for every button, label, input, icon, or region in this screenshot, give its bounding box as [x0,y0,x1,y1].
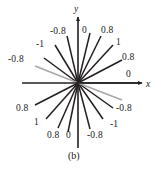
ray-value-label: 0.8 [16,104,28,114]
ray-line [46,83,78,119]
ray-value-label: 0 [126,70,131,80]
ray-value-label: 0.8 [122,53,134,63]
ray-value-label: -0.8 [50,27,66,37]
ray-line [68,83,78,132]
ray-line [78,36,101,83]
ray-value-label: 0.8 [101,26,113,36]
ray-value-label: 0.8 [47,131,59,141]
figure-caption: (b) [68,151,80,161]
ray-value-label: -1 [36,40,44,50]
ray-value-label: 1 [116,38,121,48]
ray-value-label: 0 [66,131,71,141]
ray-value-label: 1 [34,118,39,128]
ray-line [55,45,78,83]
radial-star-plot [0,0,157,169]
ray-line [58,83,78,128]
figure-panel-b: x y -0.8 0 0.8 -1 1 -0.8 0.8 0 -0.8 0.8 … [0,0,157,169]
ray-line [78,60,122,83]
ray-value-label: -0.8 [87,131,103,141]
ray-value-label: 0 [82,26,87,36]
ray-value-label: -0.8 [8,55,24,65]
ray-line [35,83,78,105]
y-axis-label: y [74,5,78,15]
ray-value-label: -0.8 [116,104,132,114]
x-axis-label: x [146,80,150,90]
ray-value-label: -1 [110,120,118,130]
ray-line-light [35,66,78,83]
